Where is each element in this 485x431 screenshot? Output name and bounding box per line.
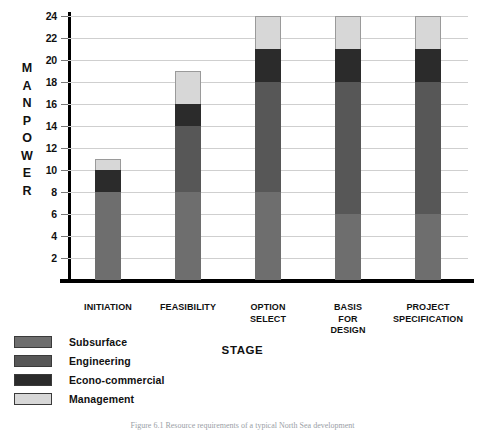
y-tick-label: 20: [46, 54, 57, 66]
bar-segment: [415, 16, 441, 49]
y-tick-mark: [61, 148, 68, 149]
y-axis-title-letter: O: [18, 130, 36, 148]
bar-segment: [255, 82, 281, 192]
bar-segment: [415, 49, 441, 82]
y-tick-label: 14: [46, 120, 57, 132]
bar-segment: [95, 192, 121, 280]
bar: [415, 16, 441, 280]
y-tick-mark: [61, 192, 68, 193]
y-tick-mark: [61, 104, 68, 105]
bar-segment: [95, 170, 121, 192]
y-tick-mark: [61, 82, 68, 83]
x-tick-label-line: DESIGN: [300, 325, 396, 337]
x-tick-label: PROJECTSPECIFICATION: [380, 302, 476, 325]
legend: SubsurfaceEngineeringEcono-commercialMan…: [14, 333, 165, 409]
y-tick-label: 2: [51, 252, 57, 264]
y-axis-line: [68, 12, 71, 280]
y-axis-title-letter: P: [18, 113, 36, 131]
bar-segment: [175, 104, 201, 126]
legend-label: Econo-commercial: [69, 374, 165, 386]
y-tick-mark: [61, 38, 68, 39]
bar-segment: [175, 192, 201, 280]
y-axis-title: MANPOWER: [18, 60, 36, 200]
y-tick-mark: [61, 214, 68, 215]
y-axis-title-letter: M: [18, 60, 36, 78]
chart-page: MANPOWER 24222018161412108642 INITIATION…: [0, 0, 485, 431]
y-tick-label: 4: [51, 230, 57, 242]
y-axis-title-letter: W: [18, 148, 36, 166]
y-axis-title-letter: E: [18, 165, 36, 183]
bar-segment: [175, 71, 201, 104]
y-tick-mark: [61, 258, 68, 259]
y-tick-label: 8: [51, 186, 57, 198]
y-tick-label: 24: [46, 10, 57, 22]
bar: [335, 16, 361, 280]
y-tick-label: 18: [46, 76, 57, 88]
y-tick-mark: [61, 16, 68, 17]
legend-item: Econo-commercial: [14, 371, 165, 388]
legend-swatch: [14, 393, 52, 405]
legend-item: Management: [14, 390, 165, 407]
bar-segment: [415, 82, 441, 214]
y-tick-label: 6: [51, 208, 57, 220]
bar-segment: [95, 159, 121, 170]
x-tick-label-line: PROJECT: [380, 302, 476, 314]
y-axis-title-letter: N: [18, 95, 36, 113]
bar-segment: [335, 16, 361, 49]
y-tick-mark: [61, 60, 68, 61]
legend-label: Engineering: [69, 355, 131, 367]
bar: [95, 159, 121, 280]
bar-segment: [335, 82, 361, 214]
legend-swatch: [14, 336, 52, 348]
y-tick-label: 16: [46, 98, 57, 110]
bar: [175, 71, 201, 280]
y-tick-mark: [61, 126, 68, 127]
legend-item: Engineering: [14, 352, 165, 369]
bar-segment: [255, 192, 281, 280]
bar-segment: [255, 49, 281, 82]
y-tick-label: 22: [46, 32, 57, 44]
bar-segment: [255, 16, 281, 49]
y-tick-mark: [61, 236, 68, 237]
legend-label: Management: [69, 393, 134, 405]
y-tick-label: 10: [46, 164, 57, 176]
legend-item: Subsurface: [14, 333, 165, 350]
bar-segment: [335, 49, 361, 82]
y-tick-label: 12: [46, 142, 57, 154]
plot-area: 24222018161412108642 INITIATIONFEASIBILI…: [68, 16, 468, 280]
legend-label: Subsurface: [69, 336, 127, 348]
figure-caption: Figure 6.1 Resource requirements of a ty…: [0, 421, 485, 430]
legend-swatch: [14, 355, 52, 367]
y-tick-mark: [61, 170, 68, 171]
bar-segment: [175, 126, 201, 192]
y-axis-title-letter: R: [18, 183, 36, 201]
x-tick-label-line: SPECIFICATION: [380, 314, 476, 326]
y-axis-title-letter: A: [18, 78, 36, 96]
bar: [255, 16, 281, 280]
bar-segment: [415, 214, 441, 280]
bar-segment: [335, 214, 361, 280]
legend-swatch: [14, 374, 52, 386]
